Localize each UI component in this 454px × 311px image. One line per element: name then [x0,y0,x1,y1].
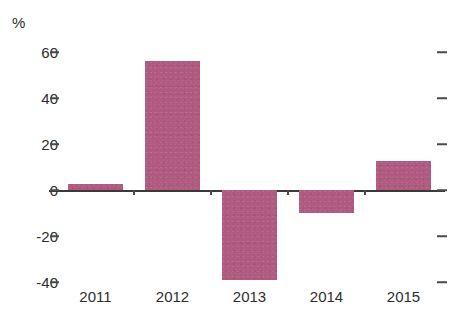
bar-2015 [376,161,431,190]
plot-area: 6040200-20-40 [57,40,442,285]
y-axis-tick-mark-left [50,97,59,99]
bar-2012 [145,61,200,190]
y-axis-tick-mark-right [437,51,447,53]
y-axis-tick-mark-right [437,235,447,237]
y-axis-tick-mark-right [437,143,447,145]
bar-2011 [68,184,123,190]
y-axis-tick-mark-right [437,97,447,99]
y-axis-tick-mark-left [50,235,59,237]
bar-chart-figure: % 6040200-20-40 20112012201320142015 [0,0,454,311]
y-axis-tick-mark-left [50,281,59,283]
y-axis-tick-mark-left [50,51,59,53]
x-axis-tick-mark [287,190,289,195]
y-axis-tick-mark-left [50,189,59,191]
y-axis-tick-mark-right [437,281,447,283]
y-axis-tick-mark-right [437,189,447,191]
x-axis-tick-mark [364,190,366,195]
x-axis-label-2015: 2015 [387,288,420,305]
x-axis-tick-mark [210,190,212,195]
y-axis-unit-label: % [12,14,26,31]
x-axis-label-2011: 2011 [79,288,111,305]
x-axis-tick-mark [133,190,135,195]
y-axis-tick-mark-left [50,143,59,145]
bar-2013 [222,190,277,280]
bar-2014 [299,190,354,213]
x-axis-label-2013: 2013 [233,288,266,305]
x-axis-label-2014: 2014 [310,288,343,305]
x-axis-label-2012: 2012 [156,288,189,305]
